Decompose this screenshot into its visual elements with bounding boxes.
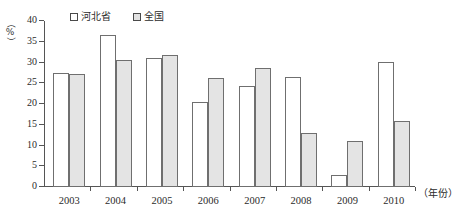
bar-2004-hebei <box>100 35 116 187</box>
bar-2005-hebei <box>146 58 162 187</box>
y-tick: 0 <box>39 186 44 187</box>
x-tick <box>137 187 138 191</box>
x-tick-end <box>415 187 416 191</box>
bar-2006-national <box>208 78 224 187</box>
y-tick: 20 <box>39 103 44 104</box>
x-tick-label-2010: 2010 <box>383 195 404 207</box>
legend-swatch-national-icon <box>133 13 141 21</box>
y-tick: 5 <box>39 165 44 166</box>
x-tick <box>322 187 323 191</box>
x-tick-label-2008: 2008 <box>291 195 312 207</box>
y-axis-paren-close: ） <box>6 35 15 49</box>
y-tick: 30 <box>39 62 44 63</box>
y-tick: 15 <box>39 124 44 125</box>
bar-2008-hebei <box>285 77 301 187</box>
bar-2006-hebei <box>192 102 208 187</box>
x-tick-label-2005: 2005 <box>151 195 172 207</box>
y-axis-line <box>44 21 45 187</box>
y-tick-label: 30 <box>27 56 37 67</box>
bar-2010-hebei <box>378 62 394 187</box>
y-tick: 10 <box>39 145 44 146</box>
plot-area: 0510152025303540 20032004200520062007200… <box>44 21 415 187</box>
x-axis-title: （年份） <box>418 188 456 200</box>
x-tick-label-2004: 2004 <box>105 195 126 207</box>
legend-swatch-hebei-icon <box>70 13 78 21</box>
bar-2003-hebei <box>53 73 69 187</box>
x-tick <box>183 187 184 191</box>
y-tick-label: 15 <box>27 118 37 129</box>
y-tick-label: 25 <box>27 76 37 87</box>
y-tick-label: 40 <box>27 14 37 25</box>
x-tick <box>90 187 91 191</box>
x-tick-label-2006: 2006 <box>198 195 219 207</box>
x-tick-label-2003: 2003 <box>59 195 80 207</box>
bar-2003-national <box>69 74 85 187</box>
y-tick: 35 <box>39 41 44 42</box>
y-tick: 40 <box>39 20 44 21</box>
x-tick <box>369 187 370 191</box>
x-tick <box>230 187 231 191</box>
y-tick-label: 10 <box>27 139 37 150</box>
bar-2008-national <box>301 133 317 187</box>
x-tick-label-2007: 2007 <box>244 195 265 207</box>
bar-2010-national <box>394 121 410 187</box>
bar-2007-hebei <box>239 86 255 187</box>
y-axis-title: （ % ） <box>3 19 17 46</box>
y-axis-paren-open: （ <box>6 17 15 31</box>
y-tick-label: 35 <box>27 35 37 46</box>
bar-2005-national <box>162 55 178 187</box>
y-tick: 25 <box>39 82 44 83</box>
y-tick-label: 0 <box>32 180 37 191</box>
y-tick-label: 5 <box>32 159 37 170</box>
bar-2009-national <box>347 141 363 187</box>
bar-2009-hebei <box>331 175 347 187</box>
x-tick-label-2009: 2009 <box>337 195 358 207</box>
bar-2007-national <box>255 68 271 187</box>
y-tick-label: 20 <box>27 97 37 108</box>
bar-2004-national <box>116 60 132 187</box>
x-tick <box>276 187 277 191</box>
